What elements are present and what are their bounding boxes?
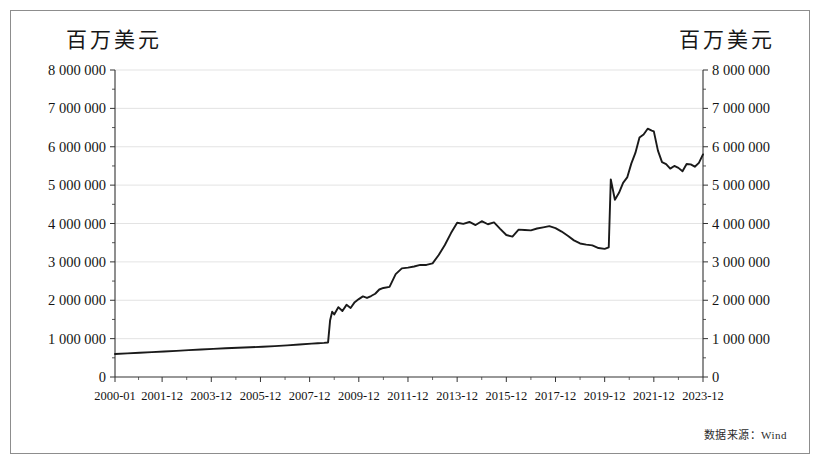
- svg-text:1 000 000: 1 000 000: [48, 331, 106, 347]
- line-chart-svg: 8 000 0007 000 0006 000 0005 000 0004 00…: [0, 0, 819, 464]
- svg-text:2 000 000: 2 000 000: [712, 292, 770, 308]
- svg-text:4 000 000: 4 000 000: [48, 216, 106, 232]
- svg-text:2021-12: 2021-12: [633, 389, 675, 403]
- source-note: 数据来源：Wind: [704, 426, 788, 442]
- svg-text:2011-12: 2011-12: [387, 389, 428, 403]
- svg-text:2015-12: 2015-12: [485, 389, 527, 403]
- y-axis-left-labels: 8 000 0007 000 0006 000 0005 000 0004 00…: [48, 62, 106, 385]
- svg-text:2001-12: 2001-12: [141, 389, 183, 403]
- svg-text:2013-12: 2013-12: [436, 389, 478, 403]
- y-axis-right-labels: 8 000 0007 000 0006 000 0005 000 0004 00…: [712, 62, 770, 385]
- gridlines-group: [115, 70, 703, 339]
- x-axis-ticks: [115, 377, 703, 382]
- svg-text:2009-12: 2009-12: [338, 389, 380, 403]
- svg-text:5 000 000: 5 000 000: [712, 177, 770, 193]
- svg-text:8 000 000: 8 000 000: [48, 62, 106, 78]
- svg-text:0: 0: [99, 369, 106, 385]
- svg-text:3 000 000: 3 000 000: [48, 254, 106, 270]
- svg-text:5 000 000: 5 000 000: [48, 177, 106, 193]
- svg-text:3 000 000: 3 000 000: [712, 254, 770, 270]
- svg-text:2000-01: 2000-01: [94, 389, 136, 403]
- svg-text:7 000 000: 7 000 000: [712, 100, 770, 116]
- svg-text:2017-12: 2017-12: [535, 389, 577, 403]
- svg-text:2007-12: 2007-12: [289, 389, 331, 403]
- y-axis-right-ticks: [703, 70, 708, 377]
- chart-figure: 百万美元 百万美元 8 000 0007 000 0006 000 0005 0…: [0, 0, 819, 464]
- svg-text:8 000 000: 8 000 000: [712, 62, 770, 78]
- x-axis-labels: 2000-012001-122003-122005-122007-122009-…: [94, 389, 724, 403]
- y-axis-left-ticks: [110, 70, 115, 377]
- svg-text:2019-12: 2019-12: [584, 389, 626, 403]
- svg-text:4 000 000: 4 000 000: [712, 216, 770, 232]
- svg-text:7 000 000: 7 000 000: [48, 100, 106, 116]
- plot-area: 8 000 0007 000 0006 000 0005 000 0004 00…: [0, 0, 819, 464]
- svg-text:6 000 000: 6 000 000: [48, 139, 106, 155]
- data-series-line: [115, 129, 703, 354]
- svg-text:2023-12: 2023-12: [682, 389, 724, 403]
- svg-text:2005-12: 2005-12: [240, 389, 282, 403]
- svg-text:6 000 000: 6 000 000: [712, 139, 770, 155]
- svg-text:1 000 000: 1 000 000: [712, 331, 770, 347]
- svg-text:2 000 000: 2 000 000: [48, 292, 106, 308]
- svg-text:2003-12: 2003-12: [190, 389, 232, 403]
- svg-text:0: 0: [712, 369, 719, 385]
